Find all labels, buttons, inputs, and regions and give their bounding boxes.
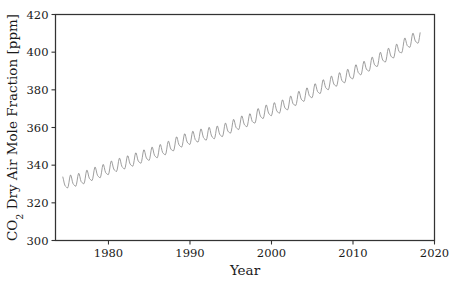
y-axis-title-text: CO2 Dry Air Mole Fraction [ppm] xyxy=(4,14,25,241)
y-tick-label: 360 xyxy=(27,121,49,135)
x-tick-label: 2000 xyxy=(257,246,286,260)
co2-chart-figure: 3003203403603804004201980199020002010202… xyxy=(0,0,452,284)
y-axis-title: CO2 Dry Air Mole Fraction [ppm] xyxy=(4,14,25,241)
y-tick-label: 400 xyxy=(27,45,49,59)
x-tick-label: 1980 xyxy=(94,246,123,260)
y-tick-label: 420 xyxy=(27,8,49,22)
plot-area: 3003203403603804004201980199020002010202… xyxy=(0,0,452,284)
plot-frame xyxy=(56,15,435,241)
x-tick-label: 1990 xyxy=(175,246,204,260)
x-tick-label: 2010 xyxy=(338,246,367,260)
y-tick-label: 380 xyxy=(27,83,49,97)
x-tick-label: 2020 xyxy=(420,246,449,260)
co2-data-line xyxy=(63,33,420,188)
y-tick-label: 320 xyxy=(27,196,49,210)
y-tick-label: 340 xyxy=(27,158,49,172)
y-tick-label: 300 xyxy=(27,234,49,248)
x-axis-title: Year xyxy=(229,262,261,278)
